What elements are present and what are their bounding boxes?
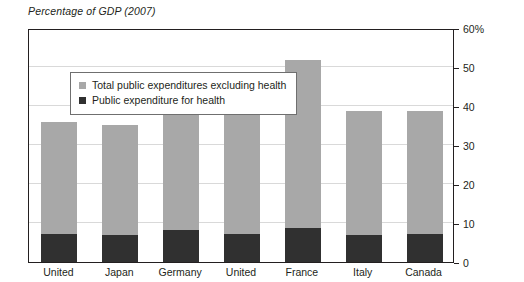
legend-swatch-icon — [79, 82, 86, 89]
y-tick-label: 60% — [463, 23, 484, 35]
legend-item-label: Public expenditure for health — [92, 95, 225, 106]
y-tick-mark — [454, 263, 459, 264]
y-tick-label: 10 — [463, 218, 475, 230]
bar-segment-health[interactable] — [285, 228, 321, 262]
plot-area: Total public expenditures excluding heal… — [28, 29, 454, 263]
y-tick-mark — [454, 185, 459, 186]
legend-item-label: Total public expenditures excluding heal… — [92, 80, 286, 91]
chart-legend: Total public expenditures excluding heal… — [70, 72, 297, 115]
y-tick-mark — [454, 224, 459, 225]
y-tick-label: 50 — [463, 62, 475, 74]
y-tick-mark — [454, 29, 459, 30]
legend-swatch-icon — [79, 97, 86, 104]
x-tick-label: Germany — [159, 266, 202, 278]
bar-segment-health[interactable] — [163, 230, 199, 262]
bars-layer — [29, 30, 453, 262]
y-tick-label: 40 — [463, 101, 475, 113]
chart-title: Percentage of GDP (2007) — [28, 5, 156, 17]
bar-segment-health[interactable] — [102, 235, 138, 262]
bar-segment-health[interactable] — [224, 234, 260, 262]
y-axis: 0102030405060% — [454, 29, 518, 263]
x-axis: UnitedJapanGermanyUnitedFranceItalyCanad… — [28, 264, 454, 282]
x-tick-label: Italy — [353, 266, 372, 278]
legend-item-health: Public expenditure for health — [79, 93, 286, 108]
bar-segment-health[interactable] — [41, 234, 77, 262]
x-tick-label: Japan — [105, 266, 134, 278]
x-tick-label: Canada — [405, 266, 442, 278]
x-tick-label: United — [43, 266, 73, 278]
bar-segment-health[interactable] — [346, 235, 382, 262]
y-tick-mark — [454, 107, 459, 108]
x-tick-label: United — [226, 266, 256, 278]
y-tick-label: 0 — [463, 257, 469, 269]
bar-group[interactable] — [407, 111, 443, 262]
y-tick-label: 30 — [463, 140, 475, 152]
bar-group[interactable] — [163, 95, 199, 262]
bar-segment-health[interactable] — [407, 234, 443, 262]
y-tick-label: 20 — [463, 179, 475, 191]
y-tick-mark — [454, 146, 459, 147]
bar-group[interactable] — [224, 93, 260, 262]
chart-figure: Percentage of GDP (2007) Total public ex… — [0, 0, 524, 282]
legend-item-total-public: Total public expenditures excluding heal… — [79, 78, 286, 93]
bar-group[interactable] — [346, 111, 382, 262]
x-tick-label: France — [286, 266, 319, 278]
y-tick-mark — [454, 68, 459, 69]
bar-group[interactable] — [102, 125, 138, 262]
bar-group[interactable] — [41, 122, 77, 262]
